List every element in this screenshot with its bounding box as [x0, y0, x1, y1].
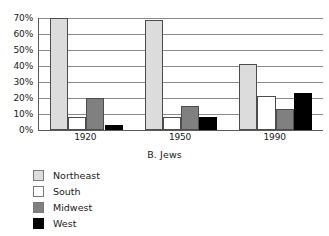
- x-axis-tick-labels: 192019501990: [38, 132, 322, 146]
- bar-northeast-1920[interactable]: [50, 18, 68, 130]
- legend-item-label: Midwest: [53, 202, 92, 213]
- bars-layer: [39, 18, 323, 130]
- legend-swatch-icon: [33, 202, 44, 213]
- y-axis-tick-label: 30%: [14, 78, 33, 87]
- x-axis-tick-label: 1920: [38, 132, 133, 142]
- legend-swatch-icon: [33, 218, 44, 229]
- y-axis-tick-label: 40%: [14, 62, 33, 71]
- y-axis-tick-label: 10%: [14, 110, 33, 119]
- chart-legend: NortheastSouthMidwestWest: [33, 168, 193, 232]
- y-axis-tick-labels: 0%10%20%30%40%50%60%70%: [0, 10, 36, 138]
- y-axis-tick-label: 20%: [14, 94, 33, 103]
- y-axis-tick-label: 50%: [14, 46, 33, 55]
- bar-midwest-1990[interactable]: [276, 109, 294, 130]
- bar-midwest-1920[interactable]: [86, 98, 104, 130]
- x-axis-tick-label: 1950: [133, 132, 228, 142]
- bar-group: [50, 18, 123, 130]
- bar-northeast-1990[interactable]: [239, 64, 257, 130]
- x-axis-tick-label: 1990: [227, 132, 322, 142]
- legend-item-midwest[interactable]: Midwest: [33, 200, 193, 215]
- legend-swatch-icon: [33, 170, 44, 181]
- bar-chart-figure: 0%10%20%30%40%50%60%70% 192019501990 B. …: [0, 0, 329, 236]
- plot-area: [38, 18, 323, 131]
- bar-south-1920[interactable]: [68, 117, 86, 130]
- bar-west-1950[interactable]: [199, 117, 217, 130]
- bar-west-1990[interactable]: [294, 93, 312, 130]
- bar-south-1990[interactable]: [257, 96, 275, 130]
- bar-west-1920[interactable]: [105, 125, 123, 130]
- legend-item-label: West: [53, 218, 76, 229]
- legend-item-west[interactable]: West: [33, 216, 193, 231]
- bar-group: [145, 18, 218, 130]
- y-axis-tick-label: 60%: [14, 30, 33, 39]
- legend-swatch-icon: [33, 186, 44, 197]
- bar-group: [239, 18, 312, 130]
- bar-northeast-1950[interactable]: [145, 20, 163, 130]
- y-axis-tick-label: 70%: [14, 14, 33, 23]
- legend-item-label: Northeast: [53, 170, 100, 181]
- bar-south-1950[interactable]: [163, 117, 181, 130]
- chart-subtitle: B. Jews: [0, 149, 329, 160]
- legend-item-label: South: [53, 186, 81, 197]
- bar-midwest-1950[interactable]: [181, 106, 199, 130]
- y-axis-tick-label: 0%: [19, 126, 33, 135]
- legend-item-northeast[interactable]: Northeast: [33, 168, 193, 183]
- plot-wrapper: 0%10%20%30%40%50%60%70% 192019501990: [0, 10, 329, 138]
- legend-item-south[interactable]: South: [33, 184, 193, 199]
